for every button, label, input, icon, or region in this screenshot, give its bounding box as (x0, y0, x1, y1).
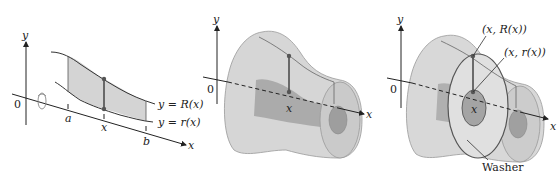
x-axis-label: x (366, 108, 373, 121)
lower-curve-label: y = r(x) (157, 116, 200, 129)
inner-hole (329, 106, 347, 134)
x-axis-label: x (188, 139, 195, 152)
tick-b: b (143, 135, 150, 148)
rotate-about-x-axis-icon (38, 93, 46, 109)
outer-point-label: (x, R(x)) (482, 23, 527, 36)
x-axis-label: x (550, 120, 557, 133)
y-axis-label: y (396, 13, 404, 26)
washer-label: Washer (482, 161, 524, 174)
origin-label: 0 (207, 83, 214, 96)
upper-curve-label: y = R(x) (157, 98, 204, 111)
panel-region: y 0 a x b x y = R(x) y = r(x) (12, 29, 204, 152)
tick-a: a (65, 112, 72, 125)
panel-solid: y 0 x x (203, 13, 373, 158)
origin-label: 0 (14, 98, 21, 111)
panel-washer: y 0 x x (x, R(x)) (x, r(x)) Washer (387, 13, 557, 174)
tick-x: x (471, 103, 478, 116)
tick-x: x (101, 121, 108, 134)
y-axis-label: y (212, 13, 220, 26)
y-axis-label: y (21, 29, 29, 42)
origin-label: 0 (390, 83, 397, 96)
inner-point-label: (x, r(x)) (504, 46, 546, 59)
washer-method-diagram: y 0 a x b x y = R(x) y = r(x) y 0 x x (0, 0, 557, 178)
tick-x: x (286, 102, 293, 115)
